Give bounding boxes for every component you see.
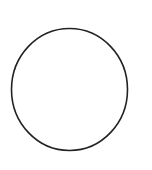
circle-outline — [12, 29, 128, 151]
diagram-canvas — [0, 0, 152, 170]
diagram-svg — [0, 0, 152, 170]
